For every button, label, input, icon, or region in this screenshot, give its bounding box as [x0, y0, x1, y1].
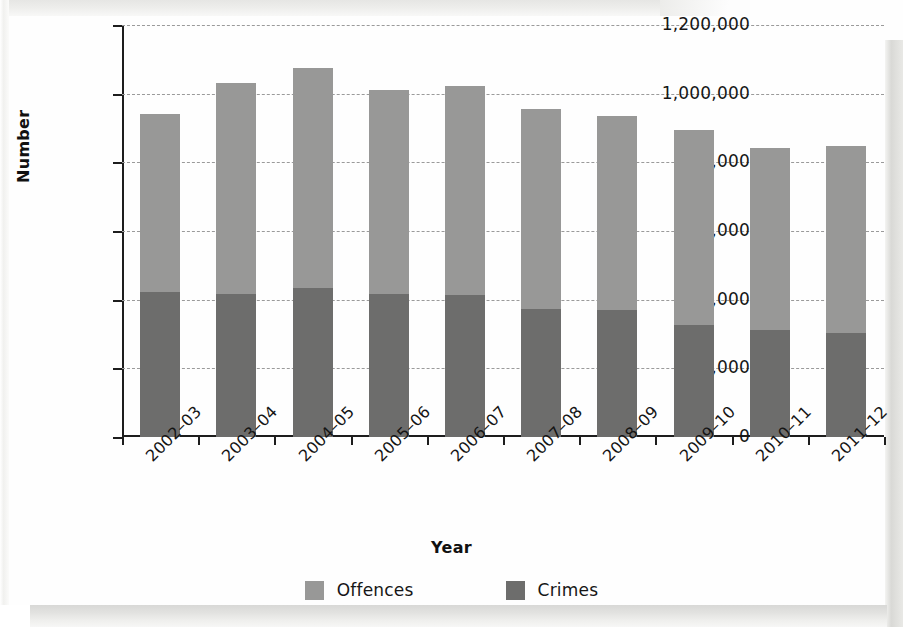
bar-segment-crimes[interactable] — [521, 309, 561, 437]
x-tick-mark — [274, 437, 276, 445]
bar-group[interactable] — [597, 25, 637, 437]
bar-segment-offences[interactable] — [140, 114, 180, 292]
legend-swatch-icon — [506, 581, 525, 600]
bar-segment-offences[interactable] — [521, 109, 561, 309]
bar-group[interactable] — [216, 25, 256, 437]
bar-segment-crimes[interactable] — [216, 294, 256, 438]
plot-area: 1,200,0001,000,000800,000600,000400,0002… — [122, 25, 884, 437]
bar-segment-offences[interactable] — [826, 146, 866, 333]
legend-item[interactable]: Offences — [305, 580, 414, 600]
x-tick-mark — [655, 437, 657, 445]
y-tick-mark — [113, 300, 122, 302]
bar-group[interactable] — [674, 25, 714, 437]
bar-segment-crimes[interactable] — [445, 295, 485, 437]
y-tick-mark — [113, 94, 122, 96]
x-tick-mark — [122, 437, 124, 445]
x-tick-mark — [351, 437, 353, 445]
bar-segment-offences[interactable] — [597, 116, 637, 310]
y-axis-title: Number — [14, 110, 33, 183]
y-tick-mark — [113, 231, 122, 233]
y-tick-mark — [113, 368, 122, 370]
x-tick-mark — [808, 437, 810, 445]
bar-group[interactable] — [750, 25, 790, 437]
x-tick-mark — [198, 437, 200, 445]
x-tick-mark — [579, 437, 581, 445]
bar-segment-crimes[interactable] — [369, 294, 409, 438]
x-tick-mark — [884, 437, 886, 445]
bar-segment-offences[interactable] — [216, 83, 256, 294]
stacked-bar-chart: Number 1,200,0001,000,000800,000600,0004… — [0, 0, 903, 627]
legend-item[interactable]: Crimes — [506, 580, 599, 600]
bar-segment-crimes[interactable] — [140, 292, 180, 437]
bar-segment-offences[interactable] — [369, 90, 409, 294]
chart-legend: OffencesCrimes — [0, 580, 903, 600]
legend-swatch-icon — [305, 581, 324, 600]
bar-segment-offences[interactable] — [445, 86, 485, 294]
legend-label: Crimes — [538, 580, 599, 600]
y-tick-mark — [113, 162, 122, 164]
bar-group[interactable] — [826, 25, 866, 437]
bar-group[interactable] — [369, 25, 409, 437]
bar-group[interactable] — [521, 25, 561, 437]
x-tick-mark — [732, 437, 734, 445]
x-tick-mark — [427, 437, 429, 445]
bar-group[interactable] — [140, 25, 180, 437]
bar-segment-offences[interactable] — [750, 148, 790, 330]
legend-label: Offences — [337, 580, 414, 600]
y-tick-mark — [113, 25, 122, 27]
x-axis-title: Year — [0, 538, 903, 557]
bar-segment-offences[interactable] — [293, 68, 333, 288]
x-tick-mark — [503, 437, 505, 445]
bar-group[interactable] — [445, 25, 485, 437]
bar-segment-crimes[interactable] — [293, 288, 333, 437]
bar-group[interactable] — [293, 25, 333, 437]
y-tick-label: 0 — [739, 426, 750, 446]
y-tick-mark — [113, 437, 122, 439]
bar-segment-offences[interactable] — [674, 130, 714, 325]
